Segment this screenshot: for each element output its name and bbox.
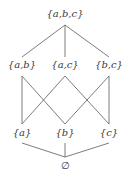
node-a: {a} [13, 127, 32, 138]
node-ac: {a,c} [51, 59, 78, 70]
edge-abc-bc [65, 25, 109, 57]
node-empty: ∅ [61, 160, 70, 171]
edge-c-empty [65, 143, 109, 157]
edge-a-empty [22, 143, 65, 157]
hasse-diagram: {a,b,c}{a,b}{a,c}{b,c}{a}{b}{c}∅ [0, 0, 129, 179]
node-ab: {a,b} [8, 59, 36, 70]
nodes: {a,b,c}{a,b}{a,c}{b,c}{a}{b}{c}∅ [8, 8, 123, 171]
node-abc: {a,b,c} [46, 8, 83, 19]
edge-abc-ab [22, 25, 65, 57]
node-b: {b} [55, 127, 74, 138]
node-bc: {b,c} [95, 59, 123, 70]
node-c: {c} [100, 127, 118, 138]
